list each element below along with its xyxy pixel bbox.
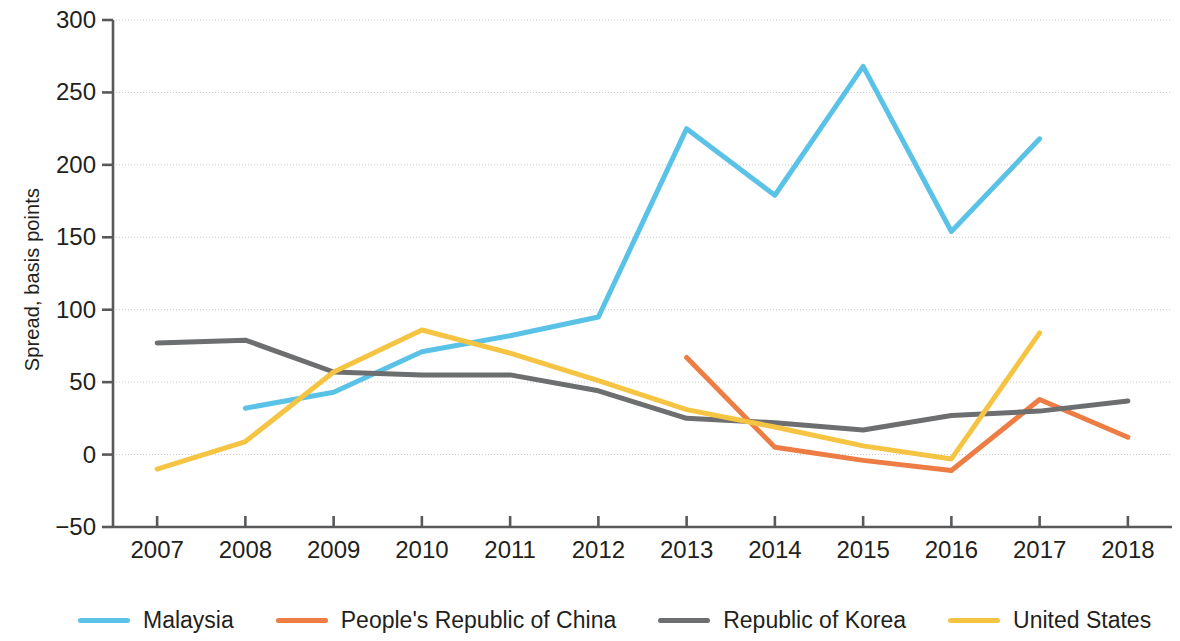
x-tick-label: 2015 (836, 536, 889, 564)
legend-label: United States (1013, 607, 1151, 634)
legend-item[interactable]: United States (948, 607, 1151, 634)
legend-color-swatch (78, 618, 130, 623)
legend-label: Republic of Korea (723, 607, 906, 634)
x-tick-label: 2009 (307, 536, 360, 564)
chart-legend: MalaysiaPeople's Republic of ChinaRepubl… (0, 600, 1180, 641)
x-tick-label: 2010 (395, 536, 448, 564)
legend-color-swatch (276, 618, 328, 623)
legend-item[interactable]: People's Republic of China (276, 607, 616, 634)
legend-item[interactable]: Malaysia (78, 607, 234, 634)
line-chart: Spread, basis points 300250200150100500−… (0, 0, 1180, 641)
gridlines (113, 20, 1172, 455)
x-tick-label: 2012 (572, 536, 625, 564)
legend-label: People's Republic of China (341, 607, 616, 634)
x-tick-label: 2018 (1101, 536, 1154, 564)
x-tick-label: 2013 (660, 536, 713, 564)
legend-color-swatch (948, 618, 1000, 623)
x-tick-label: 2008 (219, 536, 272, 564)
x-tick-label: 2017 (1013, 536, 1066, 564)
x-tick-label: 2014 (748, 536, 801, 564)
legend-label: Malaysia (143, 607, 234, 634)
x-tick-label: 2011 (484, 536, 536, 564)
legend-item[interactable]: Republic of Korea (658, 607, 906, 634)
legend-color-swatch (658, 618, 710, 623)
x-tick-label: 2007 (130, 536, 183, 564)
x-tick-label: 2016 (925, 536, 978, 564)
